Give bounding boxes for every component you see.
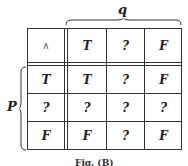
row-variable-label: P [7,99,17,114]
table-cell: T [68,66,106,93]
divider [64,29,65,149]
row-header: T [28,66,64,93]
row-header: ? [28,94,64,121]
row-brace [19,66,27,151]
column-header: T [68,29,106,62]
divider [28,62,181,63]
table-cell: ? [107,94,144,121]
table-cell: F [145,66,182,93]
table-cell: F [68,122,106,149]
column-header: ? [107,29,144,62]
column-variable-label: q [118,2,127,17]
truth-table: ∧ T ? F T T ? F ? ? ? ? F F ? F [27,28,182,150]
table-cell: ? [145,94,182,121]
table-cell: F [145,122,182,149]
figure-caption: Fig. (B) [75,158,114,166]
column-header: F [145,29,182,62]
table-cell: ? [107,122,144,149]
row-header: F [28,122,64,149]
operator-cell: ∧ [28,29,64,62]
column-brace [65,18,182,26]
table-cell: ? [68,94,106,121]
table-cell: ? [107,66,144,93]
